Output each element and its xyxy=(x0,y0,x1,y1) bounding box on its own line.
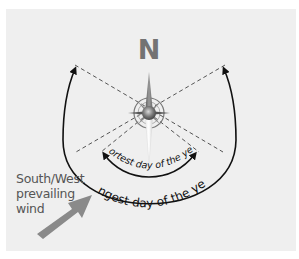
compass-icon xyxy=(128,72,170,163)
shortest-day-label: Shortest day of the year xyxy=(0,0,195,171)
wind-label-line-1: South/West xyxy=(16,171,84,186)
wind-label: South/West prevailing wind xyxy=(16,171,84,216)
wind-label-line-2: prevailing xyxy=(16,186,84,201)
longest-day-arc-left xyxy=(63,69,75,140)
sun-path-diagram: N Shortest day of the year Longest day o… xyxy=(0,0,299,259)
north-label: N xyxy=(138,34,161,65)
wind-label-line-3: wind xyxy=(16,201,84,216)
